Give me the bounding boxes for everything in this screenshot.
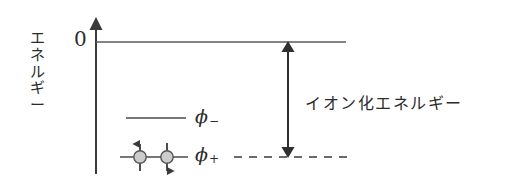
- electron-spin-up: [134, 144, 146, 171]
- phi-minus-symbol: ϕ: [195, 105, 208, 127]
- electron-spin-down: [161, 143, 173, 171]
- phi-plus-label: ϕ+: [195, 143, 219, 166]
- electron-circle: [161, 151, 173, 163]
- phi-plus-subscript: +: [208, 152, 219, 166]
- phi-plus-symbol: ϕ: [195, 143, 208, 165]
- energy-axis-label-char: ギ: [24, 80, 50, 97]
- electron-circle: [134, 151, 146, 163]
- energy-axis-label-char: ネ: [24, 47, 50, 64]
- ionization-energy-label: イオン化エネルギー: [305, 90, 463, 114]
- energy-axis-label-char: エ: [24, 30, 50, 47]
- energy-axis-label-char: ー: [24, 97, 50, 114]
- ionization-energy-arrow: [282, 41, 295, 158]
- energy-axis-label-char: ル: [24, 64, 50, 81]
- phi-minus-label: ϕ−: [195, 105, 219, 128]
- axis-arrowhead-icon: [90, 17, 103, 30]
- phi-minus-subscript: −: [208, 114, 219, 128]
- zero-level-label: 0: [74, 27, 87, 51]
- energy-axis-label: エ ネ ル ギ ー: [24, 30, 50, 114]
- energy-axis-line: [90, 17, 103, 174]
- energy-level-diagram: エ ネ ル ギ ー 0 ϕ− ϕ+ イオン化エネルギー: [0, 0, 525, 181]
